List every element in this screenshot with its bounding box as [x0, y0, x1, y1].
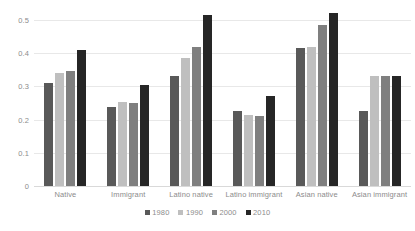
bar: [181, 58, 190, 186]
legend-item[interactable]: 1980: [145, 208, 170, 217]
bar: [381, 76, 390, 186]
y-axis-tick-label: 0.2: [18, 115, 29, 124]
bar: [192, 47, 201, 186]
bar-chart: 00.10.20.30.40.5 NativeImmigrantLatino n…: [0, 0, 415, 231]
legend-label: 1990: [186, 208, 203, 217]
axis-baseline: [34, 186, 411, 187]
bar: [44, 83, 53, 186]
bar-groups: [34, 20, 411, 186]
bar-group: [97, 20, 160, 186]
y-axis-tick-label: 0.5: [18, 16, 29, 25]
legend-item[interactable]: 2000: [212, 208, 237, 217]
x-axis-tick-label: Asian native: [285, 190, 348, 199]
bar-group: [285, 20, 348, 186]
bar-group: [348, 20, 411, 186]
bar: [329, 13, 338, 186]
bar: [318, 25, 327, 186]
bar-group: [222, 20, 285, 186]
bar: [170, 76, 179, 186]
bar: [77, 50, 86, 186]
bar: [307, 47, 316, 186]
bar: [244, 115, 253, 186]
bar: [392, 76, 401, 186]
bar: [370, 76, 379, 186]
legend-item[interactable]: 2010: [246, 208, 271, 217]
x-axis-tick-label: Immigrant: [97, 190, 160, 199]
bar: [55, 73, 64, 186]
legend-label: 2000: [220, 208, 237, 217]
x-axis-tick-label: Native: [34, 190, 97, 199]
bar: [233, 111, 242, 186]
chart-legend: 1980199020002010: [0, 208, 415, 217]
x-axis-labels: NativeImmigrantLatino nativeLatino immig…: [34, 190, 411, 199]
bar: [255, 116, 264, 186]
y-axis-tick-label: 0: [25, 182, 29, 191]
legend-label: 2010: [253, 208, 270, 217]
y-axis-tick-label: 0.3: [18, 82, 29, 91]
bar: [107, 107, 116, 186]
bar: [203, 15, 212, 186]
legend-item[interactable]: 1990: [178, 208, 203, 217]
bar: [266, 96, 275, 186]
legend-swatch-icon: [246, 210, 251, 215]
bar: [359, 111, 368, 186]
bar-group: [160, 20, 223, 186]
y-axis-tick-label: 0.4: [18, 49, 29, 58]
legend-swatch-icon: [212, 210, 217, 215]
bar: [66, 71, 75, 186]
x-axis-tick-label: Latino immigrant: [222, 190, 285, 199]
legend-label: 1980: [152, 208, 169, 217]
legend-swatch-icon: [178, 210, 183, 215]
x-axis-tick-label: Asian immigrant: [348, 190, 411, 199]
legend-swatch-icon: [145, 210, 150, 215]
bar: [140, 85, 149, 186]
y-axis-labels: 00.10.20.30.40.5: [0, 0, 34, 186]
bar: [296, 48, 305, 186]
bar-group: [34, 20, 97, 186]
y-axis-tick-label: 0.1: [18, 148, 29, 157]
x-axis-tick-label: Latino native: [160, 190, 223, 199]
bar: [118, 102, 127, 186]
bar: [129, 103, 138, 186]
